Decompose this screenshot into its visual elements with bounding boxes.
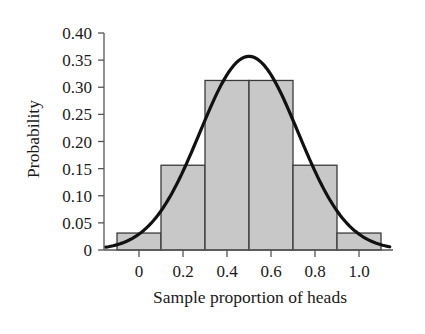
x-axis-ticks: 00.20.40.60.81.0 [135,250,370,281]
x-tick-label: 0.8 [304,262,325,281]
x-axis-title: Sample proportion of heads [153,287,347,307]
histogram-bar [161,165,205,250]
y-tick-label: 0 [84,241,93,260]
y-axis-title: Probability [23,100,43,178]
y-tick-label: 0.35 [62,51,92,70]
histogram-chart: 00.050.100.150.200.250.300.350.40 00.20.… [0,0,425,334]
y-tick-label: 0.05 [62,214,92,233]
x-tick-label: 0.4 [216,262,238,281]
y-axis-ticks: 00.050.100.150.200.250.300.350.40 [62,24,104,260]
y-tick-label: 0.40 [62,24,92,43]
x-tick-label: 1.0 [348,262,369,281]
y-tick-label: 0.15 [62,160,92,179]
x-tick-label: 0.6 [260,262,281,281]
histogram-bar [293,165,337,250]
y-tick-label: 0.30 [62,78,92,97]
y-tick-label: 0.10 [62,187,92,206]
histogram-bars [117,80,381,250]
y-tick-label: 0.25 [62,105,92,124]
x-tick-label: 0.2 [172,262,193,281]
y-tick-label: 0.20 [62,133,92,152]
x-tick-label: 0 [135,262,144,281]
